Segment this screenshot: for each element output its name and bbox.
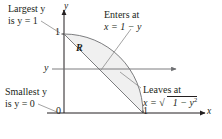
leaves-equation-lhs: x = bbox=[143, 97, 157, 108]
annotation-largest-y-line2: is y = 1 bbox=[8, 15, 45, 27]
annotation-leaves-line1: Leaves at bbox=[143, 84, 197, 96]
y-tick-label-y: y bbox=[44, 62, 48, 74]
origin-label: 0 bbox=[56, 105, 61, 117]
annotation-largest-y: Largest y is y = 1 bbox=[8, 3, 45, 27]
annotation-leaves-at: Leaves at x = √1 − y2 bbox=[143, 84, 197, 109]
annotation-enters-line2: x = 1 − y bbox=[104, 21, 141, 33]
annotation-smallest-y: Smallest y is y = 0 bbox=[5, 86, 47, 110]
figure-region-r: y x 1 y 0 1 R Largest y is y = 1 Smalles… bbox=[0, 0, 222, 139]
annotation-smallest-y-line1: Smallest y bbox=[5, 86, 47, 98]
x-axis-label: x bbox=[207, 106, 211, 117]
region-label-r: R bbox=[76, 42, 83, 54]
annotation-largest-y-line1: Largest y bbox=[8, 3, 45, 15]
annotation-enters-at: Enters at x = 1 − y bbox=[104, 9, 141, 33]
annotation-enters-line1: Enters at bbox=[104, 9, 141, 21]
y-tick-label-1: 1 bbox=[55, 26, 60, 38]
annotation-smallest-y-line2: is y = 0 bbox=[5, 98, 47, 110]
y-axis-label: y bbox=[64, 1, 68, 12]
leaves-radicand: 1 − y bbox=[165, 97, 194, 108]
square-root-symbol: √1 − y2 bbox=[159, 96, 197, 109]
annotation-leaves-line2: x = √1 − y2 bbox=[143, 96, 197, 109]
